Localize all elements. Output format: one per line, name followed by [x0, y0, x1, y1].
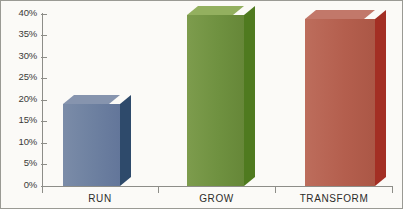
bar-grow-top-face	[187, 6, 244, 15]
x-axis-category-grow: GROW	[158, 193, 275, 204]
y-axis-tick-label: 35%	[19, 28, 37, 39]
bar-top-parallelogram-icon	[305, 10, 375, 19]
y-axis-tick-mark	[41, 143, 47, 144]
y-axis-tick-mark	[41, 57, 47, 58]
x-axis-category-transform: TRANSFORM	[275, 193, 393, 204]
bar-transform-top-face	[305, 10, 375, 19]
bar-grow-side-face	[244, 6, 255, 186]
x-axis-separator	[158, 186, 159, 193]
bar-transform-side-face	[375, 10, 386, 186]
y-axis-tick-mark	[41, 14, 47, 15]
bar-grow-front-face	[187, 15, 244, 186]
bar-grow	[187, 15, 244, 186]
x-axis-line	[42, 186, 393, 187]
y-axis-tick-label: 20%	[19, 93, 37, 104]
y-axis-tick-label: 40%	[19, 7, 37, 18]
bar-top-parallelogram-icon	[187, 6, 244, 15]
y-axis-tick-label: 30%	[19, 50, 37, 61]
bar-side-parallelogram-icon	[120, 95, 131, 186]
bar-top-parallelogram-icon	[63, 95, 120, 104]
y-axis-tick-mark	[41, 35, 47, 36]
x-axis-separator	[42, 186, 43, 193]
y-axis-tick-label: 25%	[19, 71, 37, 82]
y-axis-tick-label: 5%	[24, 157, 37, 168]
bar-run-side-face	[120, 95, 131, 186]
x-axis-separator	[275, 186, 276, 193]
x-axis-category-run: RUN	[42, 193, 158, 204]
y-axis-tick-label: 10%	[19, 136, 37, 147]
bar-side-parallelogram-icon	[244, 6, 255, 186]
y-axis-tick-label: 0%	[24, 179, 37, 190]
y-axis-tick-mark	[41, 78, 47, 79]
bar-transform-front-face	[305, 19, 375, 186]
bar-transform	[305, 19, 375, 186]
y-axis-tick-label: 15%	[19, 114, 37, 125]
bar-side-parallelogram-icon	[375, 10, 386, 186]
bar-run-front-face	[63, 104, 120, 186]
y-axis-tick-mark	[41, 121, 47, 122]
bar-run	[63, 104, 120, 186]
y-axis-tick-mark	[41, 164, 47, 165]
bar-chart: 40% 35% 30% 25% 20% 15% 10% 5% 0%	[0, 0, 403, 209]
bar-run-top-face	[63, 95, 120, 104]
x-axis-separator	[392, 186, 393, 193]
y-axis-tick-mark	[41, 100, 47, 101]
